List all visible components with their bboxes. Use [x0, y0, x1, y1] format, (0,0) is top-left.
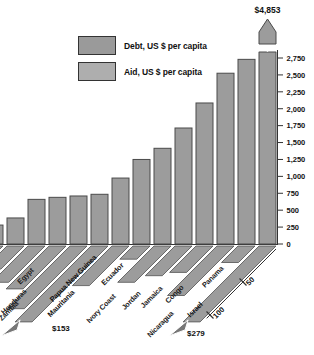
debt-bar-congo — [196, 103, 213, 244]
debt-legend-label: Debt, US $ per capita — [124, 41, 207, 51]
chart-legend: Debt, US $ per capita Aid, US $ per capi… — [78, 36, 308, 88]
aid-overflow-arrow-mauritania — [1, 320, 20, 336]
country-label-ivory-coast: Ivory Coast — [85, 292, 118, 325]
max-debt-value-label: $4,853 — [255, 5, 281, 15]
aid-value-label-israel: $279 — [187, 329, 205, 338]
y-tick-label: 1,250 — [287, 155, 306, 164]
y-tick-label: 0 — [287, 240, 291, 249]
aid-overflow-arrow-israel — [169, 320, 188, 336]
debt-bar-nicaragua — [217, 73, 234, 244]
y-tick-label: 750 — [287, 189, 300, 198]
aid-swatch — [78, 62, 116, 81]
aid-value-label-mauritania: $153 — [52, 324, 70, 333]
legend-item-aid: Aid, US $ per capita — [78, 62, 308, 81]
y-tick-label: 2,250 — [287, 88, 306, 97]
debt-bar-clipped — [0, 225, 3, 244]
y-tick-label: 500 — [287, 206, 300, 215]
debt-bar-ivory-coast — [112, 178, 129, 244]
debt-bar-mauritania — [91, 194, 108, 244]
country-label-jamaica: Jamaica — [139, 283, 166, 310]
y-tick-label: 250 — [287, 223, 300, 232]
y-tick-label: 1,750 — [287, 121, 306, 130]
country-label-jordan: Jordan — [120, 289, 143, 312]
debt-bar-papua-new-guinea — [70, 196, 87, 244]
debt-bar-honduras — [28, 199, 45, 244]
y-tick-label: 2,000 — [287, 105, 306, 114]
y-tick-label: 1,000 — [287, 172, 306, 181]
y-tick-label: 1,500 — [287, 138, 306, 147]
debt-bar-jamaica — [175, 128, 192, 244]
debt-bar-jordan — [154, 148, 171, 244]
legend-item-debt: Debt, US $ per capita — [78, 36, 308, 55]
debt-bar-ecuador — [133, 159, 150, 244]
debt-aid-chart: 02505007501,0001,2501,5001,7502,0002,250… — [0, 0, 314, 355]
debt-bar-egypt — [7, 218, 24, 244]
aid-legend-label: Aid, US $ per capita — [124, 67, 202, 77]
debt-bar-zambia — [49, 197, 66, 244]
debt-swatch — [78, 36, 116, 55]
